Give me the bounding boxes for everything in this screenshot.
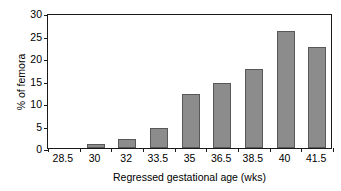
- y-tick-label-20: 20: [20, 53, 42, 65]
- y-tick-label-25: 25: [20, 31, 42, 43]
- y-tick-label-30: 30: [20, 8, 42, 20]
- bar-35: [182, 94, 200, 148]
- plot-area: [47, 14, 332, 149]
- bar-33.5: [150, 128, 168, 148]
- x-tick-label-41.5: 41.5: [296, 152, 336, 165]
- y-tick-label-15: 15: [20, 76, 42, 88]
- bar-38.5: [245, 69, 263, 148]
- x-axis-tick-labels: 28.5303233.53536.538.54041.5: [47, 152, 332, 166]
- y-tick-label-0: 0: [20, 143, 42, 155]
- bar-chart-figure: % of femora 051015202530 28.5303233.5353…: [0, 0, 341, 191]
- y-tick-label-5: 5: [20, 121, 42, 133]
- bar-series: [48, 15, 331, 148]
- bar-41.5: [308, 47, 326, 148]
- x-axis-title: Regressed gestational age (wks): [47, 171, 332, 183]
- y-tick-label-10: 10: [20, 98, 42, 110]
- bar-32: [118, 139, 136, 148]
- bar-30: [87, 144, 105, 149]
- bar-36.5: [213, 83, 231, 148]
- y-axis-tick-labels: 051015202530: [20, 8, 42, 152]
- bar-40: [277, 31, 295, 148]
